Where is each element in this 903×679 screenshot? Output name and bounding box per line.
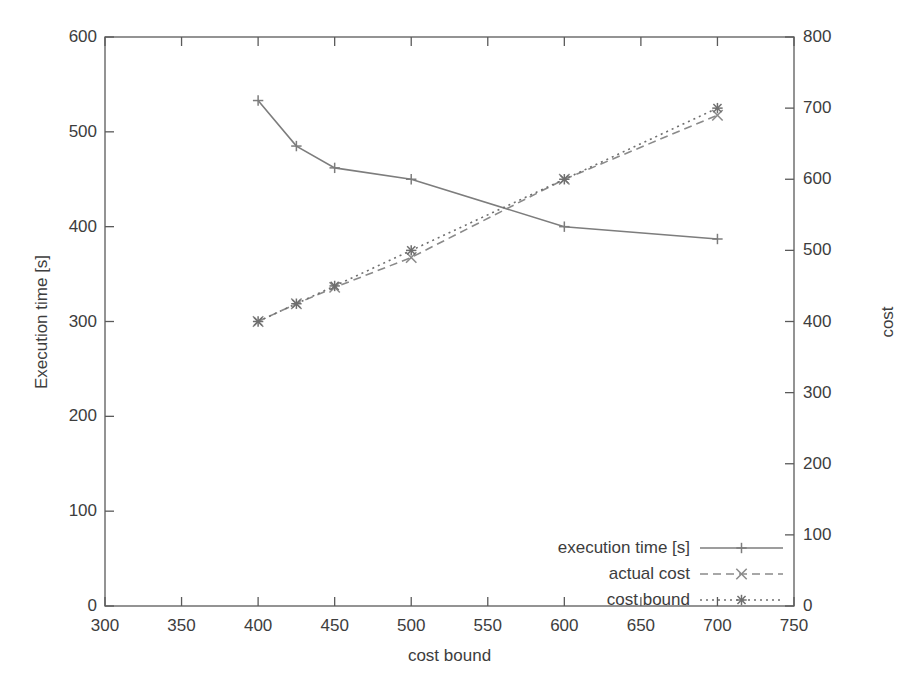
- x-tick-label: 400: [244, 616, 272, 636]
- series-line: [258, 108, 717, 321]
- x-tick-label: 300: [91, 616, 119, 636]
- x-tick-label: 700: [703, 616, 731, 636]
- data-point-marker: [559, 221, 569, 231]
- data-point-marker: [329, 163, 339, 173]
- data-point-marker: [253, 316, 263, 326]
- y-left-tick-label: 100: [69, 501, 97, 521]
- x-tick-label: 750: [780, 616, 808, 636]
- plot-frame: [105, 37, 794, 606]
- legend-label-3: cost bound: [607, 590, 690, 610]
- y-left-tick-label: 600: [69, 27, 97, 47]
- y-left-tick-label: 300: [69, 312, 97, 332]
- x-tick-label: 600: [550, 616, 578, 636]
- series-3: [253, 103, 723, 327]
- y-axis-left-title: Execution time [s]: [32, 254, 52, 388]
- data-point-marker: [559, 174, 569, 184]
- series-line: [258, 115, 717, 321]
- y-right-tick-label: 600: [803, 169, 831, 189]
- chart-canvas: [0, 0, 903, 679]
- legend-label-1: execution time [s]: [558, 538, 690, 558]
- y-right-tick-label: 300: [803, 383, 831, 403]
- y-right-tick-label: 700: [803, 98, 831, 118]
- x-tick-label: 500: [397, 616, 425, 636]
- y-right-tick-label: 400: [803, 312, 831, 332]
- series-1: [253, 95, 723, 244]
- y-right-tick-label: 200: [803, 454, 831, 474]
- y-left-tick-label: 200: [69, 406, 97, 426]
- data-point-marker: [406, 245, 416, 255]
- x-tick-label: 450: [320, 616, 348, 636]
- data-point-marker: [712, 103, 722, 113]
- data-point-marker: [712, 234, 722, 244]
- data-point-marker: [291, 299, 301, 309]
- y-left-tick-label: 500: [69, 122, 97, 142]
- chart-figure: 3003504004505005506006507007500100200300…: [0, 0, 903, 679]
- x-tick-label: 650: [627, 616, 655, 636]
- y-left-tick-label: 400: [69, 217, 97, 237]
- legend-sample-marker-1: [736, 543, 746, 553]
- legend-label-2: actual cost: [609, 564, 690, 584]
- y-left-tick-label: 0: [88, 596, 97, 616]
- y-right-tick-label: 800: [803, 27, 831, 47]
- legend-sample-marker-3: [736, 595, 746, 605]
- x-tick-label: 350: [167, 616, 195, 636]
- x-tick-label: 550: [474, 616, 502, 636]
- y-axis-right-title: cost: [878, 306, 898, 337]
- x-axis-title: cost bound: [408, 646, 491, 666]
- y-right-tick-label: 100: [803, 525, 831, 545]
- data-point-marker: [329, 281, 339, 291]
- y-right-tick-label: 500: [803, 240, 831, 260]
- data-point-marker: [406, 174, 416, 184]
- series-2: [253, 110, 723, 327]
- y-right-tick-label: 0: [803, 596, 812, 616]
